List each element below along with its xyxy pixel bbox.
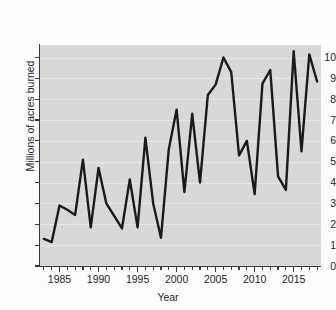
x-tick-1989 <box>90 266 91 270</box>
data-series-line <box>40 45 321 266</box>
x-tick-2004 <box>207 266 208 270</box>
x-tick-2005 <box>215 266 216 272</box>
x-tick-2010 <box>254 266 255 272</box>
x-tick-1984 <box>51 266 52 270</box>
x-tick-1997 <box>153 266 154 270</box>
plot-area <box>40 45 321 266</box>
x-tick-1983 <box>43 266 44 270</box>
y-tick-label-6: 6 <box>306 135 336 145</box>
x-tick-2000 <box>176 266 177 272</box>
x-tick-1992 <box>114 266 115 270</box>
x-tick-label-1990: 1990 <box>79 274 119 285</box>
x-tick-2018 <box>317 266 318 270</box>
x-tick-2013 <box>277 266 278 270</box>
x-tick-label-1995: 1995 <box>118 274 158 285</box>
x-tick-1987 <box>75 266 76 270</box>
x-tick-2015 <box>293 266 294 272</box>
x-tick-2017 <box>309 266 310 270</box>
x-tick-1996 <box>145 266 146 270</box>
y-tick-label-2: 2 <box>306 219 336 229</box>
x-tick-2001 <box>184 266 185 270</box>
x-tick-1985 <box>59 266 60 272</box>
y-axis-title: Millions of acres burned <box>24 26 36 206</box>
y-tick-2 <box>35 224 39 225</box>
x-tick-label-2005: 2005 <box>196 274 236 285</box>
x-tick-1990 <box>98 266 99 272</box>
x-tick-2002 <box>192 266 193 270</box>
x-tick-2009 <box>246 266 247 270</box>
x-tick-1991 <box>106 266 107 270</box>
x-tick-1998 <box>160 266 161 270</box>
y-tick-1 <box>35 245 39 246</box>
x-tick-1993 <box>121 266 122 270</box>
x-tick-2003 <box>199 266 200 270</box>
x-tick-2008 <box>238 266 239 270</box>
x-tick-2014 <box>285 266 286 270</box>
y-tick-label-5: 5 <box>306 156 336 166</box>
y-tick-0 <box>35 265 39 266</box>
x-tick-1988 <box>82 266 83 270</box>
x-tick-label-2015: 2015 <box>274 274 314 285</box>
y-tick-label-3: 3 <box>306 198 336 208</box>
y-tick-label-1: 1 <box>306 240 336 250</box>
x-tick-2012 <box>270 266 271 270</box>
x-tick-label-2010: 2010 <box>235 274 275 285</box>
x-tick-label-2000: 2000 <box>157 274 197 285</box>
x-axis-title: Year <box>0 291 336 303</box>
x-tick-2016 <box>301 266 302 270</box>
y-axis-line <box>39 44 40 267</box>
x-tick-1994 <box>129 266 130 270</box>
x-tick-2006 <box>223 266 224 270</box>
x-tick-1986 <box>67 266 68 270</box>
y-tick-label-9: 9 <box>306 73 336 83</box>
y-tick-label-10: 10 <box>306 52 336 62</box>
x-tick-1999 <box>168 266 169 270</box>
y-tick-label-4: 4 <box>306 177 336 187</box>
x-axis-line <box>39 266 321 267</box>
x-tick-2007 <box>231 266 232 270</box>
y-tick-label-8: 8 <box>306 94 336 104</box>
x-tick-2011 <box>262 266 263 270</box>
wildfire-acres-burned-chart: 012345678910 198519901995200020052010201… <box>0 0 336 310</box>
x-tick-label-1985: 1985 <box>40 274 80 285</box>
y-tick-label-0: 0 <box>306 261 336 271</box>
x-tick-1995 <box>137 266 138 272</box>
y-tick-label-7: 7 <box>306 115 336 125</box>
